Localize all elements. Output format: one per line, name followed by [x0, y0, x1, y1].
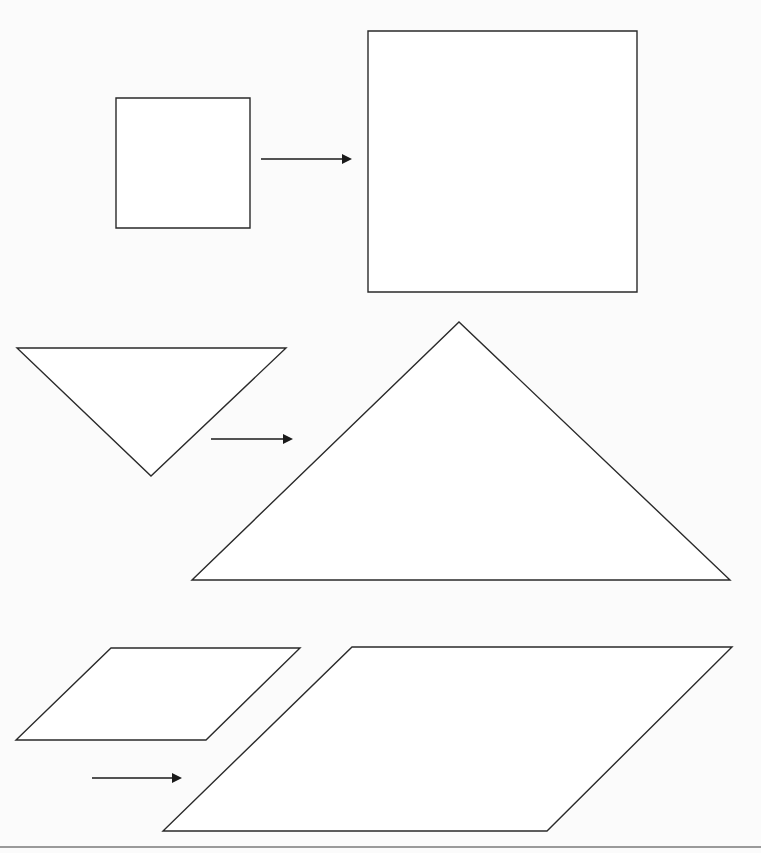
row-parallelogram [16, 647, 732, 831]
small-square [116, 98, 250, 228]
arrow-right-icon [261, 154, 352, 164]
arrowhead-2 [283, 434, 293, 444]
row-square [116, 31, 637, 292]
row-triangle [17, 322, 730, 580]
arrow-right-icon [211, 434, 293, 444]
arrowhead-3 [172, 773, 182, 783]
shape-scaling-diagram [0, 0, 761, 853]
arrowhead-1 [342, 154, 352, 164]
small-inverted-triangle [17, 348, 286, 476]
arrow-right-icon [92, 773, 182, 783]
large-square [368, 31, 637, 292]
small-parallelogram [16, 648, 300, 740]
